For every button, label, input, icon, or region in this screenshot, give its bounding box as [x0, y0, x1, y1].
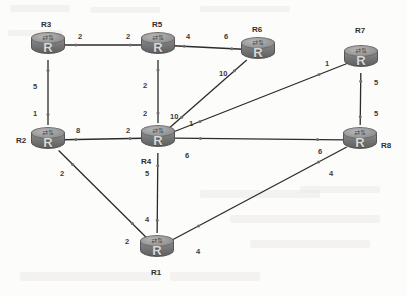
interface-marker — [316, 138, 319, 141]
router-glyph: R — [344, 53, 378, 69]
link-cost-r2-r1-to: 2 — [125, 238, 129, 246]
link-cost-r4-r8-to: 6 — [318, 148, 322, 156]
interface-marker — [180, 116, 183, 119]
router-glyph: R — [31, 40, 65, 56]
interface-marker — [129, 44, 132, 47]
interface-marker — [157, 69, 160, 72]
link-cost-r5-r4-to: 2 — [143, 110, 147, 118]
router-label-r2: R2 — [16, 136, 26, 145]
link-cost-r1-r8-to: 4 — [329, 170, 333, 178]
router-glyph: R — [343, 135, 377, 151]
interface-marker — [318, 73, 321, 76]
router-node-r5[interactable]: ⇄⇅R — [141, 32, 175, 58]
edge-r1-r8 — [170, 147, 347, 241]
router-node-r8[interactable]: ⇄⇅R — [343, 127, 377, 153]
router-label-r8: R8 — [381, 141, 391, 150]
edge-r4-r7 — [172, 63, 347, 132]
link-cost-r4-r8-from: 6 — [185, 152, 189, 160]
interface-marker — [317, 161, 320, 164]
link-cost-r7-r8-to: 5 — [374, 110, 378, 118]
interface-marker — [359, 80, 362, 83]
router-node-r7[interactable]: ⇄⇅R — [344, 45, 378, 71]
link-cost-r7-r8-from: 5 — [374, 79, 378, 87]
interface-marker — [199, 137, 202, 140]
link-cost-r2-r4-to: 2 — [126, 127, 130, 135]
router-node-r3[interactable]: ⇄⇅R — [31, 32, 65, 58]
router-label-r4: R4 — [141, 157, 151, 166]
router-label-r3: R3 — [41, 20, 51, 29]
link-cost-r4-r7-to: 1 — [325, 60, 329, 68]
interface-marker — [230, 47, 233, 50]
interface-marker — [71, 163, 74, 166]
link-cost-r4-r1-to: 4 — [145, 216, 149, 224]
router-label-r7: R7 — [355, 26, 365, 35]
router-label-r5: R5 — [152, 20, 162, 29]
interface-marker — [198, 120, 201, 123]
interface-marker — [156, 164, 159, 167]
router-node-r4[interactable]: ⇄⇅R — [141, 125, 175, 151]
interface-marker — [157, 111, 160, 114]
router-glyph: R — [141, 133, 175, 149]
interface-marker — [197, 224, 200, 227]
interface-marker — [183, 45, 186, 48]
router-glyph: R — [140, 243, 174, 259]
link-cost-r4-r1-from: 5 — [145, 170, 149, 178]
interface-marker — [131, 222, 134, 225]
link-cost-r3-r2-to: 1 — [33, 110, 37, 118]
link-cost-r5-r4-from: 2 — [143, 82, 147, 90]
link-cost-r5-r6-from: 4 — [186, 33, 190, 41]
link-cost-r3-r5-from: 2 — [78, 33, 82, 41]
router-node-r6[interactable]: ⇄⇅R — [241, 37, 275, 63]
router-glyph: R — [31, 135, 65, 151]
link-cost-r4-r7-from: 1 — [189, 120, 193, 128]
interface-marker — [47, 69, 50, 72]
link-cost-r5-r6-to: 6 — [224, 33, 228, 41]
link-cost-r1-r8-from: 4 — [196, 248, 200, 256]
link-cost-r2-r1-from: 2 — [60, 170, 64, 178]
link-cost-r3-r2-from: 5 — [33, 83, 37, 91]
router-node-r2[interactable]: ⇄⇅R — [31, 127, 65, 153]
router-glyph: R — [141, 40, 175, 56]
interface-marker — [74, 44, 77, 47]
link-cost-r2-r4-from: 8 — [76, 127, 80, 135]
router-glyph: R — [241, 45, 275, 61]
interface-marker — [359, 115, 362, 118]
router-node-r1[interactable]: ⇄⇅R — [140, 235, 174, 261]
edge-r4-r8 — [173, 138, 345, 140]
interface-marker — [129, 137, 132, 140]
interface-marker — [233, 69, 236, 72]
interface-marker — [47, 113, 50, 116]
link-cost-r3-r5-to: 2 — [126, 33, 130, 41]
router-label-r1: R1 — [151, 268, 161, 277]
network-topology-diagram: ⇄⇅R⇄⇅R⇄⇅R⇄⇅R⇄⇅R⇄⇅R⇄⇅R⇄⇅R 224651221010118… — [0, 0, 407, 296]
link-cost-r4-r6-from: 10 — [170, 113, 178, 121]
interface-marker — [74, 138, 77, 141]
interface-marker — [156, 219, 159, 222]
router-label-r6: R6 — [252, 25, 262, 34]
link-cost-r4-r6-to: 10 — [219, 70, 227, 78]
